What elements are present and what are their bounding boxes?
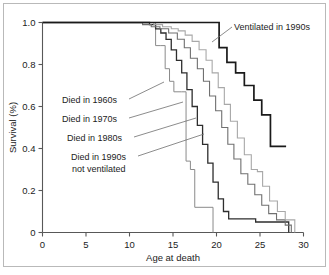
survival-curve: Died in 1990s not ventilated [43, 23, 295, 233]
x-tick-label: 0 [40, 239, 45, 250]
annotation-label: Died in 1990s [71, 152, 127, 162]
annotation-label: Died in 1960s [62, 95, 118, 105]
x-tick-label: 15 [168, 239, 179, 250]
y-tick-label: 0.2 [22, 185, 35, 196]
x-tick-label: 30 [298, 239, 309, 250]
x-axis-title: Age at death [146, 252, 200, 263]
annotation-label: Ventilated in 1990s [234, 22, 311, 32]
x-tick-label: 20 [211, 239, 222, 250]
y-tick-label: 0 [30, 227, 35, 238]
annotation-label: Died in 1970s [62, 114, 118, 124]
annotation-leader-line [129, 102, 183, 118]
x-tick-label: 5 [83, 239, 88, 250]
y-tick-label: 0.8 [22, 59, 35, 70]
annotation-leader-line [138, 134, 204, 156]
survival-curve: Died in 1960s [43, 23, 214, 233]
annotation-label: not ventilated [72, 164, 126, 174]
y-tick-label: 0.6 [22, 101, 35, 112]
survival-chart-figure: 05101520253000.20.40.60.81.0Age at death… [0, 0, 329, 275]
y-axis-title: Survival (%) [7, 102, 18, 153]
annotation-label: Died in 1980s [67, 133, 123, 143]
y-tick-label: 0.4 [22, 143, 35, 154]
data-curves: Died in 1960sDied in 1970sDied in 1980sD… [43, 23, 295, 233]
x-tick-label: 10 [124, 239, 135, 250]
survival-curve: Died in 1980s [43, 23, 292, 233]
axes: 05101520253000.20.40.60.81.0Age at death… [7, 17, 309, 263]
plot-canvas: 05101520253000.20.40.60.81.0Age at death… [0, 0, 329, 275]
y-tick-label: 1.0 [22, 17, 35, 28]
annotation-leader-line [134, 118, 196, 137]
annotation-leader-line [212, 27, 232, 42]
annotation-leader-line [129, 82, 164, 99]
x-tick-label: 25 [255, 239, 266, 250]
